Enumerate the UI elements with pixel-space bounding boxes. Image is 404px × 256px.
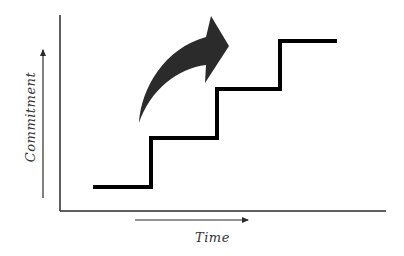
commitment-staircase-diagram [0, 0, 404, 256]
x-axis-label: Time [195, 230, 230, 245]
y-axis-label: Commitment [23, 72, 38, 162]
